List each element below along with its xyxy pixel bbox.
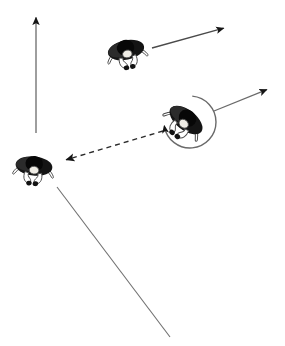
person-right-rotating	[156, 98, 209, 149]
arrow-dashed-left	[66, 131, 163, 160]
diagram-canvas: Top-down diagram of three seated people …	[0, 0, 285, 346]
person-top-center	[104, 36, 150, 74]
line-diagonal-reference	[57, 187, 170, 337]
arrow-group	[36, 18, 267, 338]
person-body	[104, 36, 150, 74]
arrow-mid-right	[214, 90, 267, 111]
scene-svg	[0, 0, 285, 346]
person-left-lower	[12, 154, 56, 188]
person-body	[156, 98, 209, 149]
arrow-top-right	[152, 28, 224, 48]
person-body	[12, 154, 56, 188]
